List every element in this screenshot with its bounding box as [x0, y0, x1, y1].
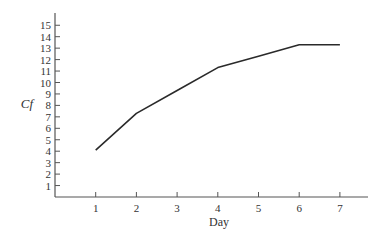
y-tick-label: 1 — [46, 180, 52, 192]
y-tick-label: 5 — [46, 134, 52, 146]
y-tick-label: 11 — [40, 65, 51, 77]
x-tick-label: 6 — [296, 202, 302, 214]
x-axis: 1234567 — [55, 192, 368, 214]
x-tick-label: 3 — [174, 202, 180, 214]
x-tick-label: 1 — [93, 202, 99, 214]
y-axis-title: Cf — [21, 96, 36, 111]
y-tick-label: 2 — [46, 168, 52, 180]
y-axis: 123456789101112131415 — [40, 13, 60, 197]
y-tick-label: 6 — [46, 122, 52, 134]
y-tick-label: 8 — [46, 99, 52, 111]
y-tick-label: 9 — [46, 88, 52, 100]
y-tick-label: 14 — [40, 31, 52, 43]
y-tick-label: 12 — [40, 54, 51, 66]
x-tick-label: 2 — [134, 202, 140, 214]
y-tick-label: 15 — [40, 19, 52, 31]
data-series — [96, 45, 340, 150]
y-tick-label: 3 — [46, 157, 52, 169]
x-tick-label: 5 — [256, 202, 262, 214]
y-tick-label: 10 — [40, 77, 52, 89]
y-tick-label: 13 — [40, 42, 52, 54]
x-axis-title: Day — [209, 215, 229, 229]
y-tick-label: 4 — [46, 145, 52, 157]
x-tick-label: 7 — [337, 202, 343, 214]
cf-line — [96, 45, 340, 150]
y-tick-label: 7 — [46, 111, 52, 123]
x-tick-label: 4 — [215, 202, 221, 214]
line-chart: 123456789101112131415 1234567 Day Cf — [0, 0, 386, 237]
